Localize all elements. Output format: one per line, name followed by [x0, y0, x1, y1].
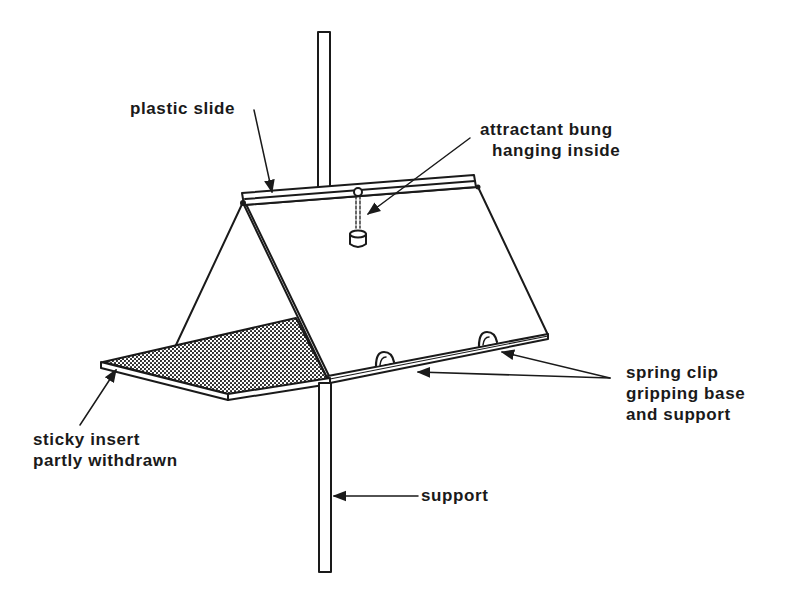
- sticky-insert: [101, 318, 330, 400]
- label-support-text: support: [421, 485, 488, 506]
- label-spring-clip: spring clip gripping base and support: [626, 362, 745, 425]
- arrow-plastic-slide: [254, 110, 272, 192]
- trap-diagram: plastic slide attractant bung hanging in…: [0, 0, 795, 597]
- label-plastic-slide-text: plastic slide: [130, 98, 235, 119]
- arrow-spring-clip-2: [418, 372, 610, 378]
- label-support: support: [421, 485, 488, 506]
- label-spring-clip-line1: spring clip: [626, 362, 745, 383]
- trap-illustration: [0, 0, 795, 597]
- label-attractant-line2: hanging inside: [480, 140, 620, 161]
- label-spring-clip-line3: and support: [626, 404, 745, 425]
- support-pole-upper: [318, 32, 330, 187]
- label-spring-clip-line2: gripping base: [626, 383, 745, 404]
- label-sticky-insert: sticky insert partly withdrawn: [33, 429, 178, 471]
- label-plastic-slide: plastic slide: [130, 98, 235, 119]
- label-sticky-insert-line1: sticky insert: [33, 429, 178, 450]
- arrow-sticky-insert: [80, 370, 116, 425]
- label-attractant-line1: attractant bung: [480, 119, 620, 140]
- label-sticky-insert-line2: partly withdrawn: [33, 450, 178, 471]
- support-pole-lower: [319, 383, 331, 572]
- label-attractant-bung: attractant bung hanging inside: [480, 119, 620, 161]
- arrow-spring-clip-1: [502, 352, 610, 378]
